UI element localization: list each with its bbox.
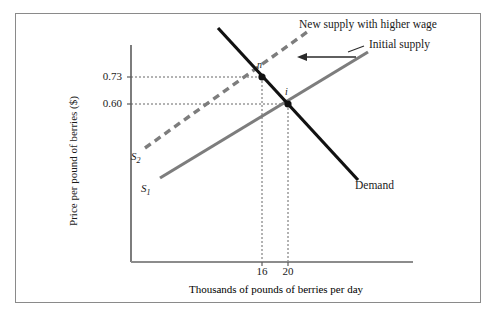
point-marker-n [258, 73, 265, 80]
curve-label-s2: S2 [131, 150, 141, 165]
annotation-initial-supply: Initial supply [369, 38, 430, 50]
x-tick-label-20: 20 [276, 265, 300, 277]
x-tick-label-16: 16 [250, 265, 274, 277]
s2-subscript: 2 [137, 156, 141, 165]
annotation-demand: Demand [355, 179, 394, 191]
point-label-i: i [285, 86, 288, 97]
guide-lines [131, 77, 288, 262]
y-axis-title: Price per pound of berries ($) [67, 71, 79, 251]
point-marker-i [284, 100, 291, 107]
curve-label-s1: S1 [141, 182, 151, 197]
annotation-new-supply: New supply with higher wage [299, 18, 437, 30]
y-tick-label-073: 0.73 [82, 70, 122, 82]
point-label-n: n [257, 59, 262, 70]
axis-lines [131, 45, 413, 262]
figure-root: Price per pound of berries ($) 0.73 0.60… [0, 0, 496, 321]
new-supply-arrow [297, 53, 356, 61]
y-tick-label-060: 0.60 [82, 97, 122, 109]
s1-subscript: 1 [147, 188, 151, 197]
x-axis-title: Thousands of pounds of berries per day [131, 283, 421, 295]
initial-supply-leader-line [348, 46, 364, 52]
